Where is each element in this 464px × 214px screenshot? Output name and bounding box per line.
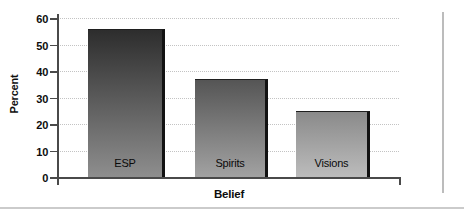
bar-chart-figure: Percent 0102030405060 ESPSpiritsVisions … (0, 0, 464, 214)
page-edge-rule (442, 12, 444, 193)
bar-label-esp: ESP (88, 157, 162, 169)
y-tick-label-50: 50 (20, 40, 48, 52)
bar-label-spirits: Spirits (195, 157, 265, 169)
bar-spirits: Spirits (195, 79, 268, 177)
page-bottom-rule (0, 207, 464, 209)
gridline-60 (60, 18, 399, 19)
bar-esp: ESP (88, 29, 165, 177)
y-tick-label-30: 30 (20, 93, 48, 105)
y-axis-title: Percent (8, 75, 20, 114)
bar-visions: Visions (296, 111, 370, 177)
y-tick-label-60: 60 (20, 13, 48, 25)
y-tick-label-40: 40 (20, 66, 48, 78)
x-axis-line (57, 177, 401, 179)
x-axis-end-tick (399, 177, 401, 185)
y-axis-line (57, 14, 59, 185)
y-tick-label-0: 0 (20, 172, 48, 184)
bar-label-visions: Visions (296, 157, 367, 169)
x-axis-title: Belief (214, 188, 244, 200)
y-tick-label-20: 20 (20, 119, 48, 131)
y-tick-label-10: 10 (20, 146, 48, 158)
